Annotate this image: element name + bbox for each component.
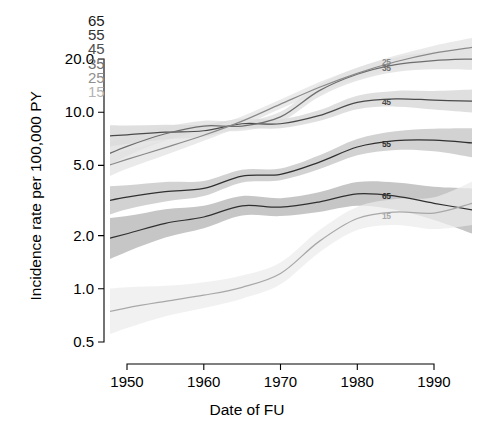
x-tick-label-1980: 1980 — [327, 374, 387, 389]
x-tick-label-1960: 1960 — [174, 374, 234, 389]
legend-item-15: 15 — [88, 85, 105, 99]
legend: 655545352515 — [88, 14, 105, 99]
y-axis-line — [98, 59, 104, 342]
x-axis-title: Date of FU — [167, 402, 327, 418]
curve-label-55: 55 — [382, 140, 391, 149]
confidence-bands — [89, 38, 473, 342]
x-tick-label-1970: 1970 — [251, 374, 311, 389]
y-tick-label-0.5: 0.5 — [34, 334, 94, 349]
y-axis-title: Incidence rate per 100,000 PY — [28, 76, 44, 316]
curve-label-65: 65 — [382, 192, 391, 201]
confidence-band-25 — [89, 38, 473, 186]
curve-label-45: 45 — [382, 98, 391, 107]
y-tick-label-20.0: 20.0 — [34, 51, 94, 66]
curve-label-25: 25 — [382, 58, 391, 67]
x-axis-line — [127, 364, 434, 370]
curve-label-15: 15 — [382, 212, 391, 221]
x-tick-label-1950: 1950 — [97, 374, 157, 389]
chart-figure: 0.51.02.05.010.020.0 1950196019701980199… — [0, 0, 495, 426]
x-tick-label-1990: 1990 — [404, 374, 464, 389]
